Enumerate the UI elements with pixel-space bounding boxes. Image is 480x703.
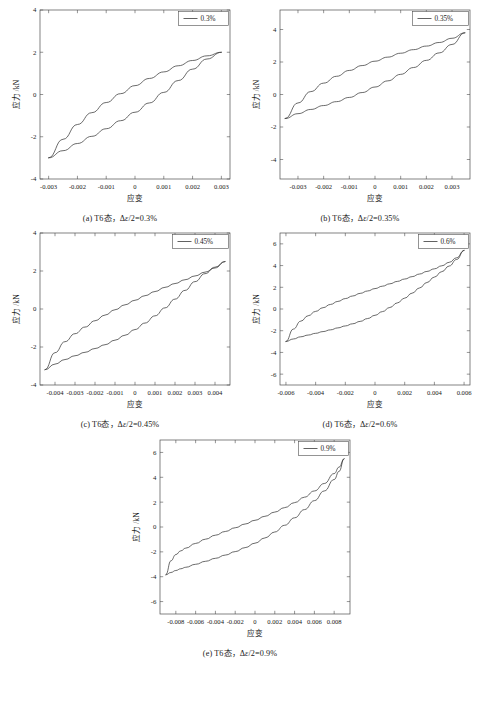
hysteresis-curve-1 [285,33,465,119]
y-axis-ticks: -4-2024 [271,26,470,163]
y-tick-label: -4 [151,573,157,580]
y-tick-label: -4 [271,156,277,163]
y-tick-label: 0 [153,523,157,530]
y-tick-label: -2 [31,133,37,140]
x-tick-label: 0.003 [445,183,461,190]
subplot-d-plot: -0.006-0.004-0.00200.0020.0040.006-6-4-2… [240,223,480,421]
subplot-d: -0.006-0.004-0.00200.0020.0040.006-6-4-2… [240,223,480,429]
x-tick-label: 0.006 [307,617,323,624]
y-tick-label: 4 [33,230,37,237]
y-tick-label: 6 [273,241,277,248]
x-tick-label: 0.001 [393,183,408,190]
x-tick-label: -0.002 [86,389,103,396]
y-tick-label: 0 [273,91,277,98]
x-axis-ticks: -0.008-0.006-0.004-0.00200.0020.0040.006… [167,440,342,625]
x-axis-title: 应变 [367,399,383,409]
subplot-c: -0.004-0.003-0.002-0.00100.0010.0020.003… [0,223,240,429]
x-tick-label: 0 [133,183,137,190]
x-tick-label: 0.002 [419,183,434,190]
subplot-b-plot: -0.003-0.002-0.00100.0010.0020.003-4-202… [240,0,480,215]
x-tick-label: 0.002 [168,389,183,396]
y-tick-label: 2 [153,498,157,505]
hysteresis-curve-0 [166,458,344,574]
figure-hysteresis-loops: -0.003-0.002-0.00100.0010.0020.003-4-202… [0,0,480,703]
hysteresis-curve-0 [286,251,464,342]
y-tick-label: 0 [33,306,37,313]
x-tick-label: -0.003 [40,183,58,190]
legend: 0.6% [419,235,469,249]
legend: 0.35% [413,12,469,26]
x-tick-label: 0 [133,389,137,396]
legend: 0.3% [179,12,229,26]
caption-suffix: /2=0.45% [126,420,159,429]
x-tick-label: 0.004 [287,617,303,624]
hysteresis-curve-1 [286,251,464,342]
legend-label: 0.45% [195,239,214,247]
y-tick-label: -6 [151,598,157,605]
x-tick-label: 0.003 [214,183,230,190]
plot-frame [280,10,470,179]
subplot-a-caption: (a) T6态，Δε/2=0.3% [0,214,240,223]
y-axis-title: 应力 /kN [11,294,21,324]
subplot-e-plot: -0.008-0.006-0.004-0.00200.0020.0040.006… [120,430,360,650]
x-tick-label: -0.006 [277,389,295,396]
x-tick-label: 0.002 [397,389,412,396]
x-axis-title: 应变 [127,399,143,409]
y-axis-ticks: -4-2024 [31,230,230,389]
legend-label: 0.6% [441,239,456,247]
subplot-c-plot: -0.004-0.003-0.002-0.00100.0010.0020.003… [0,223,240,421]
y-axis-title: 应力 /kN [11,79,21,109]
hysteresis-curve-1 [166,458,344,574]
y-axis-ticks: -4-2024 [31,6,230,182]
y-tick-label: 2 [33,49,37,56]
x-tick-label: 0.008 [327,617,343,624]
x-tick-label: -0.004 [207,617,225,624]
x-tick-label: -0.004 [307,389,325,396]
y-tick-label: -2 [31,344,37,351]
x-axis-ticks: -0.003-0.002-0.00100.0010.0020.003 [289,10,460,190]
x-axis-title: 应变 [127,193,143,203]
x-axis-title: 应变 [247,628,263,638]
figure-row-3: -0.008-0.006-0.004-0.00200.0020.0040.006… [0,430,480,658]
x-tick-label: -0.006 [187,617,205,624]
subplot-c-caption: (c) T6态，Δε/2=0.45% [0,420,240,429]
x-tick-label: 0 [373,183,377,190]
y-tick-label: 2 [33,268,37,275]
caption-prefix: (b) T6态，Δ [321,214,364,223]
subplot-e-caption: (e) T6态，Δε/2=0.9% [120,649,360,658]
x-tick-label: -0.002 [315,183,332,190]
legend: 0.9% [299,441,349,455]
y-axis-title: 应力 /kN [131,512,141,542]
plot-frame [40,10,230,179]
x-tick-label: -0.003 [66,389,84,396]
x-tick-label: 0.002 [185,183,200,190]
x-tick-label: -0.003 [289,183,307,190]
subplot-d-caption: (d) T6态，Δε/2=0.6% [240,420,480,429]
hysteresis-curve-1 [49,52,222,158]
caption-suffix: /2=0.35% [367,214,400,223]
y-tick-label: -2 [151,548,157,555]
caption-suffix: /2=0.3% [128,214,157,223]
caption-prefix: (d) T6态，Δ [323,420,366,429]
caption-prefix: (e) T6态，Δ [203,649,245,658]
hysteresis-curve-0 [45,262,225,370]
y-axis-ticks: -6-4-20246 [271,241,470,378]
x-tick-label: 0.004 [427,389,443,396]
y-tick-label: 4 [33,6,37,13]
chart-e: -0.008-0.006-0.004-0.00200.0020.0040.006… [120,430,360,650]
y-axis-title: 应力 /kN [251,294,261,324]
x-tick-label: 0 [253,617,257,624]
y-tick-label: -4 [31,382,37,389]
y-tick-label: -4 [271,349,277,356]
x-tick-label: -0.004 [46,389,64,396]
legend-label: 0.9% [321,445,336,453]
subplot-a-plot: -0.003-0.002-0.00100.0010.0020.003-4-202… [0,0,240,215]
y-tick-label: -6 [271,371,277,378]
figure-row-1: -0.003-0.002-0.00100.0010.0020.003-4-202… [0,0,480,223]
subplot-b: -0.003-0.002-0.00100.0010.0020.003-4-202… [240,0,480,223]
y-tick-label: -2 [271,328,277,335]
x-tick-label: -0.001 [341,183,358,190]
y-tick-label: 0 [273,306,277,313]
x-axis-title: 应变 [367,193,383,203]
y-tick-label: -4 [31,175,37,182]
